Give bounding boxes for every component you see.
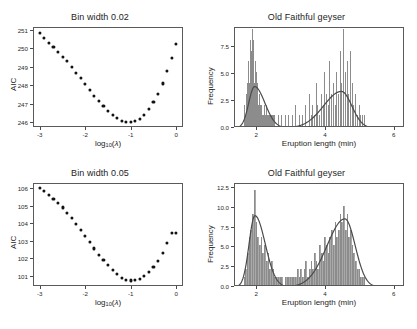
xtick-label-geyser-002: 4 — [323, 131, 326, 138]
axis-title-x-aic-005: log10(λ) — [33, 298, 183, 307]
density-curve-002 — [235, 28, 403, 126]
xtick-mark-geyser-005 — [394, 286, 395, 289]
ytick-label-geyser-005: 12.5 — [196, 183, 229, 190]
xtick-label-aic-005: -2 — [83, 290, 89, 297]
ytick-mark-geyser-002 — [231, 100, 234, 101]
ytick-label-geyser-005: 0.0 — [196, 283, 229, 290]
ytick-label-geyser-005: 10.0 — [196, 203, 229, 210]
ytick-mark-aic-005 — [30, 223, 33, 224]
xtick-mark-geyser-002 — [394, 127, 395, 130]
ytick-label-aic-005: 101 — [0, 272, 28, 279]
ytick-label-geyser-002: 7.5 — [196, 43, 229, 50]
plot-area-geyser-002 — [234, 27, 404, 127]
xtick-label-geyser-002: 2 — [255, 131, 258, 138]
ytick-mark-aic-005 — [30, 241, 33, 242]
axis-title-y-aic-005: AIC — [9, 236, 18, 249]
xtick-mark-aic-005 — [131, 286, 132, 289]
xtick-label-geyser-005: 2 — [255, 290, 258, 297]
xtick-mark-geyser-002 — [325, 127, 326, 130]
ytick-mark-geyser-005 — [231, 266, 234, 267]
figure-panel-grid: Bin width 0.02 246247248249250251 -3-2-1… — [0, 0, 417, 329]
axis-title-y-geyser-005: Frequency — [206, 225, 215, 263]
panel-title-geyser-005: Old Faithful geyser — [196, 168, 417, 178]
xtick-label-aic-002: -2 — [83, 131, 89, 138]
ytick-label-aic-005: 105 — [0, 202, 28, 209]
ytick-mark-aic-002 — [30, 67, 33, 68]
ytick-label-aic-002: 250 — [0, 45, 28, 52]
xtick-mark-aic-005 — [176, 286, 177, 289]
xtick-mark-aic-002 — [85, 127, 86, 130]
density-curve-005 — [235, 184, 403, 285]
panel-title-aic-002: Bin width 0.02 — [0, 12, 200, 22]
ytick-label-geyser-005: 2.5 — [196, 263, 229, 270]
ytick-label-aic-005: 104 — [0, 220, 28, 227]
ytick-mark-aic-002 — [30, 104, 33, 105]
ytick-mark-geyser-005 — [231, 227, 234, 228]
xtick-label-aic-005: -1 — [128, 290, 134, 297]
xtick-mark-geyser-005 — [325, 286, 326, 289]
xtick-label-aic-005: 0 — [174, 290, 177, 297]
plot-area-aic-002 — [33, 27, 183, 127]
xtick-label-geyser-002: 6 — [392, 131, 395, 138]
ytick-mark-geyser-002 — [231, 127, 234, 128]
ytick-mark-aic-002 — [30, 85, 33, 86]
xtick-label-geyser-005: 6 — [392, 290, 395, 297]
ytick-mark-aic-002 — [30, 30, 33, 31]
ytick-mark-geyser-005 — [231, 187, 234, 188]
ytick-label-aic-005: 106 — [0, 185, 28, 192]
ytick-mark-geyser-002 — [231, 73, 234, 74]
ytick-mark-aic-002 — [30, 122, 33, 123]
ytick-label-geyser-002: 0.0 — [196, 124, 229, 131]
xtick-mark-aic-005 — [40, 286, 41, 289]
ytick-label-aic-005: 102 — [0, 255, 28, 262]
panel-title-geyser-002: Old Faithful geyser — [196, 12, 417, 22]
xtick-label-aic-002: -3 — [37, 131, 43, 138]
ytick-mark-geyser-005 — [231, 207, 234, 208]
ytick-mark-geyser-005 — [231, 246, 234, 247]
xtick-mark-aic-002 — [176, 127, 177, 130]
panel-geyser-bin-005: Old Faithful geyser 0.02.55.07.510.012.5… — [196, 164, 417, 324]
xtick-mark-aic-005 — [85, 286, 86, 289]
axis-title-x-geyser-005: Eruption length (min) — [234, 298, 404, 307]
xtick-mark-geyser-005 — [256, 286, 257, 289]
panel-geyser-bin-002: Old Faithful geyser 0.02.55.07.5 246 Eru… — [196, 8, 417, 164]
panel-aic-bin-005: Bin width 0.05 101102103104105106 -3-2-1… — [0, 164, 200, 324]
ytick-mark-aic-005 — [30, 188, 33, 189]
axis-title-x-geyser-002: Eruption length (min) — [234, 139, 404, 148]
ytick-mark-geyser-005 — [231, 286, 234, 287]
xtick-label-aic-002: -1 — [128, 131, 134, 138]
xtick-label-geyser-005: 4 — [323, 290, 326, 297]
ytick-label-aic-002: 247 — [0, 100, 28, 107]
ytick-label-aic-002: 246 — [0, 119, 28, 126]
ytick-mark-geyser-002 — [231, 46, 234, 47]
ytick-mark-aic-005 — [30, 276, 33, 277]
xtick-mark-aic-002 — [131, 127, 132, 130]
ytick-mark-aic-005 — [30, 258, 33, 259]
ytick-label-aic-002: 249 — [0, 63, 28, 70]
ytick-mark-aic-005 — [30, 206, 33, 207]
xtick-mark-geyser-002 — [256, 127, 257, 130]
plot-area-geyser-005 — [234, 183, 404, 286]
xtick-label-aic-005: -3 — [37, 290, 43, 297]
panel-aic-bin-002: Bin width 0.02 246247248249250251 -3-2-1… — [0, 8, 200, 164]
xtick-mark-aic-002 — [40, 127, 41, 130]
axis-title-y-geyser-002: Frequency — [206, 67, 215, 105]
axis-title-y-aic-002: AIC — [9, 78, 18, 91]
ytick-label-aic-002: 251 — [0, 26, 28, 33]
plot-area-aic-005 — [33, 183, 183, 286]
panel-title-aic-005: Bin width 0.05 — [0, 168, 200, 178]
axis-title-x-aic-002: log10(λ) — [33, 139, 183, 148]
ytick-mark-aic-002 — [30, 48, 33, 49]
xtick-label-aic-002: 0 — [174, 131, 177, 138]
